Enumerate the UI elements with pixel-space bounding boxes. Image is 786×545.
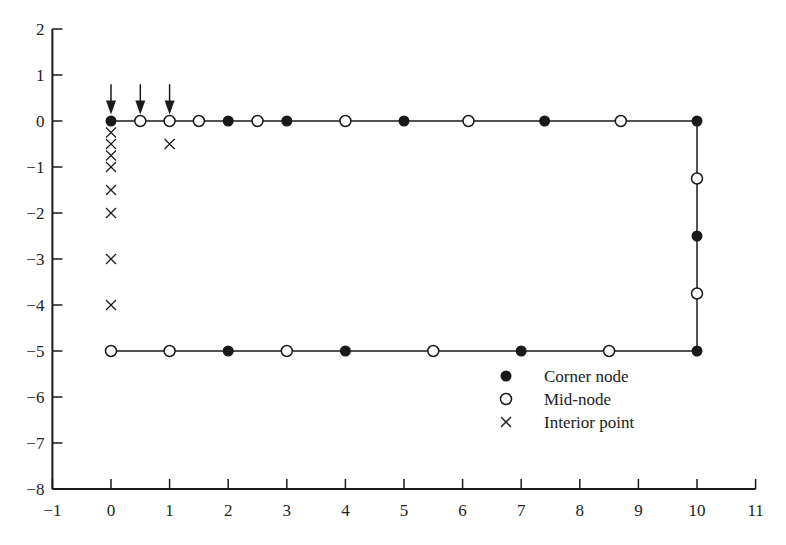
corner-node-marker xyxy=(281,116,292,127)
mid-node-marker xyxy=(463,116,474,127)
legend-corner-node-icon xyxy=(501,371,512,382)
corner-node-marker xyxy=(516,346,527,357)
legend-label-corner-node: Corner node xyxy=(544,367,629,386)
mid-node-marker xyxy=(164,116,175,127)
x-tick-label: 6 xyxy=(458,501,467,520)
boundary-outline xyxy=(111,121,697,351)
interior-point-marker xyxy=(106,185,116,195)
boundary-line xyxy=(111,121,697,351)
x-tick-label: 2 xyxy=(224,501,233,520)
corner-node-marker xyxy=(692,116,703,127)
mid-node-marker xyxy=(692,173,703,184)
mid-node-marker xyxy=(281,346,292,357)
x-tick-label: 3 xyxy=(283,501,292,520)
interior-point-marker xyxy=(165,139,175,149)
legend-label-interior-point: Interior point xyxy=(544,413,634,432)
x-tick-label: 1 xyxy=(165,501,174,520)
y-tick-label: −2 xyxy=(26,204,44,223)
x-tick-label: 8 xyxy=(576,501,585,520)
x-tick-label: 0 xyxy=(107,501,116,520)
x-tick-label: 4 xyxy=(341,501,350,520)
interior-point-marker xyxy=(106,300,116,310)
y-tick-label: 2 xyxy=(36,20,45,39)
mid-node-marker xyxy=(604,346,615,357)
mid-node-marker xyxy=(692,288,703,299)
interior-point-marker xyxy=(106,139,116,149)
legend-mid-node-icon xyxy=(501,394,512,405)
data-points xyxy=(106,116,703,357)
y-tick-label: 0 xyxy=(36,112,45,131)
x-tick-label: 11 xyxy=(747,501,763,520)
corner-node-marker xyxy=(399,116,410,127)
y-tick-label: −1 xyxy=(26,158,44,177)
corner-node-marker xyxy=(223,346,234,357)
legend-label-mid-node: Mid-node xyxy=(544,390,611,409)
y-tick-label: 1 xyxy=(36,66,45,85)
mid-node-marker xyxy=(135,116,146,127)
interior-point-marker xyxy=(106,128,116,138)
node-layout-chart: 210−1−2−3−4−5−6−7−8−101234567891011 Corn… xyxy=(0,0,786,545)
interior-point-marker xyxy=(106,151,116,161)
corner-node-marker xyxy=(223,116,234,127)
corner-node-marker xyxy=(692,346,703,357)
load-arrows xyxy=(106,84,175,114)
x-tick-label: 10 xyxy=(689,501,706,520)
y-tick-label: −5 xyxy=(26,342,44,361)
y-tick-label: −3 xyxy=(26,250,44,269)
x-tick-label: 7 xyxy=(517,501,526,520)
y-tick-label: −8 xyxy=(26,480,44,499)
mid-node-marker xyxy=(193,116,204,127)
y-tick-label: −7 xyxy=(26,434,45,453)
mid-node-marker xyxy=(252,116,263,127)
x-tick-label: 5 xyxy=(400,501,409,520)
corner-node-marker xyxy=(539,116,550,127)
x-tick-label: 9 xyxy=(634,501,643,520)
arrow-down-icon xyxy=(165,100,175,114)
corner-node-marker xyxy=(692,231,703,242)
mid-node-marker xyxy=(340,116,351,127)
mid-node-marker xyxy=(164,346,175,357)
axes: 210−1−2−3−4−5−6−7−8−101234567891011 xyxy=(26,20,763,520)
legend-interior-point-icon xyxy=(501,417,511,427)
corner-node-marker xyxy=(106,116,117,127)
mid-node-marker xyxy=(615,116,626,127)
legend: Corner nodeMid-nodeInterior point xyxy=(501,367,635,432)
interior-point-marker xyxy=(106,254,116,264)
interior-point-marker xyxy=(106,208,116,218)
corner-node-marker xyxy=(340,346,351,357)
x-tick-label: −1 xyxy=(43,501,61,520)
mid-node-marker xyxy=(106,346,117,357)
arrow-down-icon xyxy=(135,100,145,114)
y-tick-label: −6 xyxy=(26,388,44,407)
mid-node-marker xyxy=(428,346,439,357)
y-tick-label: −4 xyxy=(26,296,45,315)
arrow-down-icon xyxy=(106,100,116,114)
interior-point-marker xyxy=(106,162,116,172)
